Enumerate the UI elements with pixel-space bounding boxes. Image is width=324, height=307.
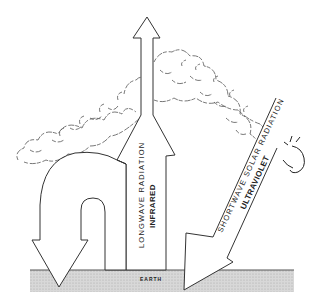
sun-icon [283,136,304,173]
infrared-label: INFRARED [148,184,157,228]
shortwave-label: SHORTWAVE SOLAR RADIATION [216,97,286,234]
longwave-label: LONGWAVE RADIATION [137,142,146,248]
diagram-svg: LONGWAVE RADIATION INFRARED SHORTWAVE SO… [0,0,324,307]
u-return-arrow [32,152,126,287]
greenhouse-effect-diagram: LONGWAVE RADIATION INFRARED SHORTWAVE SO… [0,0,324,307]
earth-label: EARTH [140,276,162,282]
